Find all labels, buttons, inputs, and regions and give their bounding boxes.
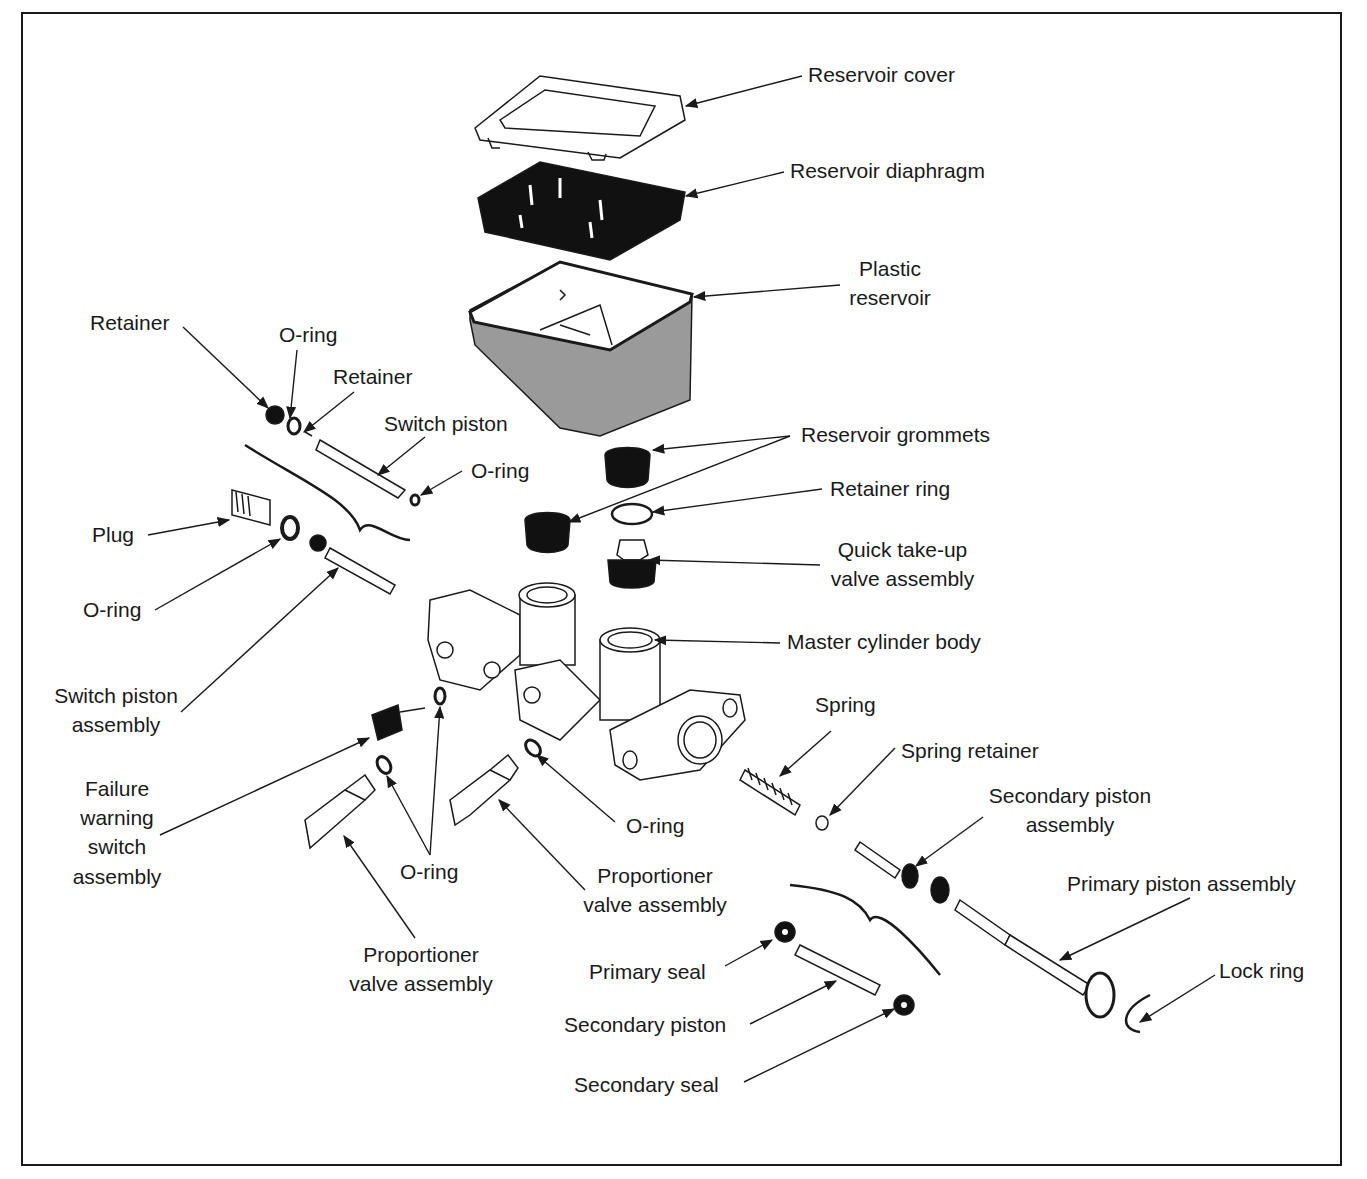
label-proportioner-left-line2: valve assembly <box>336 969 506 998</box>
label-plastic-reservoir-line2: reservoir <box>840 283 940 312</box>
label-proportioner-right-line1: Proportioner <box>570 861 740 890</box>
label-reservoir-diaphragm: Reservoir diaphragm <box>790 156 985 185</box>
label-failure-switch-line1: Failure <box>62 774 172 803</box>
label-spring: Spring <box>815 690 876 719</box>
label-lock-ring: Lock ring <box>1219 956 1304 985</box>
label-oring-switch: O-ring <box>471 456 529 485</box>
label-reservoir-cover: Reservoir cover <box>808 60 955 89</box>
reservoir-diaphragm-part <box>478 162 685 260</box>
exploded-view-drawing <box>0 0 1367 1179</box>
label-failure-switch-line4: assembly <box>62 862 172 891</box>
label-oring-plug: O-ring <box>83 595 141 624</box>
label-oring-body: O-ring <box>626 811 684 840</box>
label-failure-switch-line3: switch <box>62 832 172 861</box>
label-secondary-seal: Secondary seal <box>574 1070 719 1099</box>
label-switch-piston-assembly-line2: assembly <box>45 710 187 739</box>
label-reservoir-grommets: Reservoir grommets <box>801 420 990 449</box>
label-spring-retainer: Spring retainer <box>901 736 1039 765</box>
label-quick-takeup-line2: valve assembly <box>815 564 990 593</box>
label-plug: Plug <box>92 520 134 549</box>
label-switch-piston-assembly-line1: Switch piston <box>45 681 187 710</box>
label-oring-top: O-ring <box>279 320 337 349</box>
label-proportioner-right-line2: valve assembly <box>570 890 740 919</box>
label-retainer-right: Retainer <box>333 362 412 391</box>
leader-lines <box>148 76 1215 1082</box>
label-retainer-left: Retainer <box>90 308 169 337</box>
label-switch-piston: Switch piston <box>384 409 508 438</box>
label-proportioner-left-line1: Proportioner <box>336 940 506 969</box>
reservoir-cover-part <box>475 76 685 160</box>
label-master-cylinder-body: Master cylinder body <box>787 627 981 656</box>
label-failure-switch-line2: warning <box>62 803 172 832</box>
label-primary-seal: Primary seal <box>589 957 706 986</box>
label-secondary-piston-assembly-line2: assembly <box>975 810 1165 839</box>
label-secondary-piston-assembly-line1: Secondary piston <box>975 781 1165 810</box>
grommet-parts <box>525 448 656 589</box>
label-oring-pair: O-ring <box>400 857 458 886</box>
label-secondary-piston: Secondary piston <box>564 1010 726 1039</box>
label-primary-piston-assembly: Primary piston assembly <box>1067 869 1296 898</box>
label-retainer-ring: Retainer ring <box>830 474 950 503</box>
fitting-parts <box>305 688 543 848</box>
label-quick-takeup-line1: Quick take-up <box>815 535 990 564</box>
master-cylinder-body-part <box>428 583 745 780</box>
label-plastic-reservoir-line1: Plastic <box>840 254 940 283</box>
